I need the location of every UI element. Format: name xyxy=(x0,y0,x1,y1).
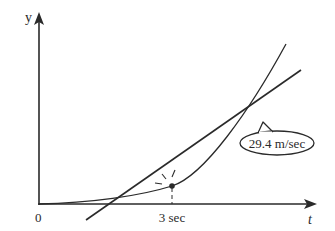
position-curve xyxy=(39,44,286,204)
tangent-velocity-diagram: 29.4 m/sec y 0 3 sec t xyxy=(0,0,335,231)
tick-label-3sec: 3 sec xyxy=(159,210,186,225)
y-axis-label: y xyxy=(25,10,32,25)
slope-callout: 29.4 m/sec xyxy=(240,122,314,155)
tangent-point xyxy=(169,183,175,189)
callout-label: 29.4 m/sec xyxy=(249,136,306,151)
x-axis xyxy=(38,199,317,209)
y-axis xyxy=(34,12,44,205)
origin-label: 0 xyxy=(35,210,42,225)
x-axis-label: t xyxy=(308,212,313,227)
highlight-rays-icon xyxy=(155,170,175,184)
